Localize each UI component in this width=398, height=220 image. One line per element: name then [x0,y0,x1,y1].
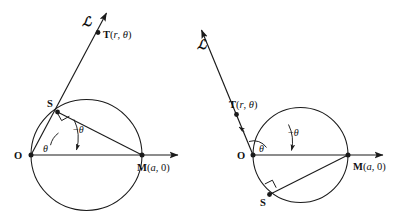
right-right-angle-marker [265,180,276,188]
left-angle-negative-theta-label: −θ [73,124,84,135]
right-point-S-dot [267,192,272,197]
left-point-O-dot [29,153,34,158]
right-point-M-dot [346,153,351,158]
left-point-M-dot [140,153,145,158]
left-point-S-label: S [47,98,53,109]
left-point-T-label: T(r, θ) [103,29,132,41]
right-ray-L [202,30,254,155]
geometry-figure: ℒ T(r, θ) S O M(a, 0) θ −θ ℒ T(r, θ [0,0,398,220]
right-point-T-label: T(r, θ) [229,99,258,111]
left-diagram: ℒ T(r, θ) S O M(a, 0) θ −θ [14,13,178,211]
left-point-M-label: M(a, 0) [137,162,170,174]
left-point-O-label: O [14,150,22,161]
right-point-S-label: S [260,197,266,208]
right-point-O-dot [251,153,256,158]
left-point-S-dot [55,110,60,115]
left-ray-L [31,13,107,155]
left-chord-SM [58,112,143,155]
left-ray-label: ℒ [82,14,92,29]
right-chord-SM [270,155,349,195]
left-point-T-dot [96,30,101,35]
left-angle-theta-label: θ [43,143,48,154]
right-angle-theta-label: θ [259,143,264,154]
right-diagram: ℒ T(r, θ) S O M(a, 0) θ −θ [197,30,386,208]
right-point-T-dot [234,112,239,117]
figure-canvas: ℒ T(r, θ) S O M(a, 0) θ −θ ℒ T(r, θ [0,0,398,220]
right-point-O-label: O [237,150,245,161]
left-angle-arc-theta [51,133,59,145]
right-ray-label: ℒ [197,37,207,52]
right-point-M-label: M(a, 0) [353,161,386,173]
right-angle-negative-theta-label: −θ [288,127,299,138]
